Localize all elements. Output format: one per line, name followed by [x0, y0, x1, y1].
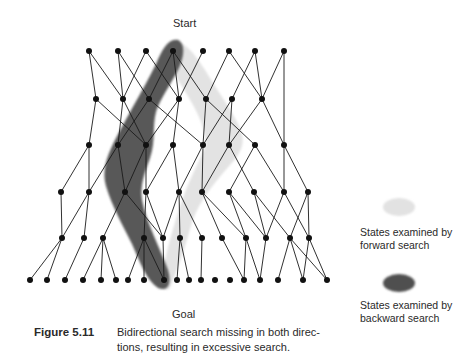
figure-number: Figure 5.11	[34, 326, 94, 338]
tree-edge	[83, 238, 103, 280]
tree-edge	[101, 238, 103, 280]
state-node	[141, 235, 147, 241]
backward-search-legend-text: States examined by backward search	[360, 299, 452, 325]
state-node	[259, 96, 265, 102]
tree-edge	[47, 238, 62, 280]
state-node	[86, 48, 92, 54]
state-node	[243, 235, 249, 241]
state-node	[122, 189, 128, 195]
tree-edge	[255, 51, 262, 99]
state-node	[200, 48, 206, 54]
state-node	[125, 277, 131, 283]
state-node	[306, 235, 312, 241]
state-node	[86, 189, 92, 195]
tree-edge	[255, 145, 284, 192]
tree-edge	[260, 238, 266, 280]
tree-edge	[229, 192, 246, 238]
caption-line2: tions, resulting in excessive search.	[117, 340, 320, 355]
state-node	[275, 277, 281, 283]
state-node	[324, 277, 330, 283]
tree-edge	[89, 99, 96, 145]
tree-edge	[262, 99, 284, 145]
tree-edge	[61, 145, 89, 192]
tree-edge	[278, 238, 290, 280]
state-node	[300, 277, 306, 283]
state-node	[170, 142, 176, 148]
tree-edge	[246, 238, 260, 280]
tree-edge	[201, 238, 202, 280]
state-node	[219, 235, 225, 241]
state-node	[86, 142, 92, 148]
state-node	[44, 277, 50, 283]
tree-edge	[266, 192, 284, 238]
state-node	[146, 96, 152, 102]
tree-edge	[284, 145, 308, 192]
tree-edge	[202, 192, 246, 238]
tree-edge	[202, 192, 222, 238]
state-node	[160, 235, 166, 241]
figure-caption: Bidirectional search missing in both dir…	[117, 325, 320, 354]
state-node	[143, 189, 149, 195]
state-node	[161, 277, 167, 283]
tree-edge	[89, 51, 96, 99]
state-node	[115, 48, 121, 54]
state-node	[81, 235, 87, 241]
state-node	[203, 96, 209, 102]
state-node	[170, 48, 176, 54]
state-node	[226, 189, 232, 195]
state-node	[229, 96, 235, 102]
state-node	[176, 189, 182, 195]
state-node	[263, 235, 269, 241]
state-node	[226, 142, 232, 148]
tree-edge	[262, 51, 284, 99]
caption-line1: Bidirectional search missing in both dir…	[117, 325, 320, 340]
state-node	[281, 48, 287, 54]
tree-edge	[308, 192, 309, 238]
tree-edge	[254, 192, 290, 238]
state-node	[200, 142, 206, 148]
start-label: Start	[173, 17, 196, 29]
state-node	[93, 96, 99, 102]
tree-edge	[229, 51, 262, 99]
tree-edge	[173, 145, 179, 192]
tree-edge	[65, 238, 84, 280]
state-node	[281, 142, 287, 148]
forward-search-legend-text: States examined by forward search	[360, 226, 452, 252]
state-node	[305, 189, 311, 195]
state-node	[177, 235, 183, 241]
state-node	[100, 235, 106, 241]
state-node	[143, 48, 149, 54]
state-node	[115, 142, 121, 148]
state-node	[143, 142, 149, 148]
legend-forward-line2: forward search	[360, 239, 452, 252]
state-node	[186, 277, 192, 283]
state-node	[176, 96, 182, 102]
goal-label: Goal	[172, 308, 195, 320]
legend-backward-line1: States examined by	[360, 299, 452, 312]
state-node	[141, 277, 147, 283]
state-node	[227, 277, 233, 283]
legend-forward-line1: States examined by	[360, 226, 452, 239]
state-node	[257, 277, 263, 283]
tree-edge	[103, 238, 116, 280]
legend-backward-line2: backward search	[360, 312, 452, 325]
backward-search-legend-swatch	[383, 274, 415, 292]
state-node	[62, 277, 68, 283]
state-node	[199, 189, 205, 195]
state-node	[252, 48, 258, 54]
state-node	[251, 189, 257, 195]
state-node	[212, 277, 218, 283]
state-node	[174, 277, 180, 283]
state-node	[120, 96, 126, 102]
state-node	[80, 277, 86, 283]
state-node	[287, 235, 293, 241]
tree-edge	[89, 51, 123, 99]
state-node	[59, 235, 65, 241]
state-node	[98, 277, 104, 283]
tree-edge	[222, 238, 244, 280]
tree-edge	[244, 238, 246, 280]
state-node	[113, 277, 119, 283]
forward-search-legend-swatch	[383, 198, 415, 216]
state-node	[252, 142, 258, 148]
state-node	[241, 277, 247, 283]
